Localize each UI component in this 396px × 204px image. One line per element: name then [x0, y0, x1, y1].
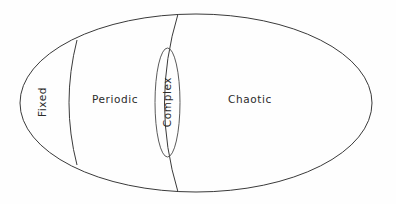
fixed-periodic-divider	[69, 40, 77, 165]
region-label-periodic: Periodic	[92, 93, 138, 105]
region-label-complex: Complex	[161, 77, 173, 127]
outer-ellipse-boundary	[20, 14, 372, 192]
dynamical-regions-diagram: Fixed Periodic Complex Chaotic	[0, 0, 396, 204]
region-label-fixed: Fixed	[36, 87, 48, 117]
diagram-canvas: Fixed Periodic Complex Chaotic	[0, 0, 396, 204]
region-label-chaotic: Chaotic	[228, 93, 272, 105]
